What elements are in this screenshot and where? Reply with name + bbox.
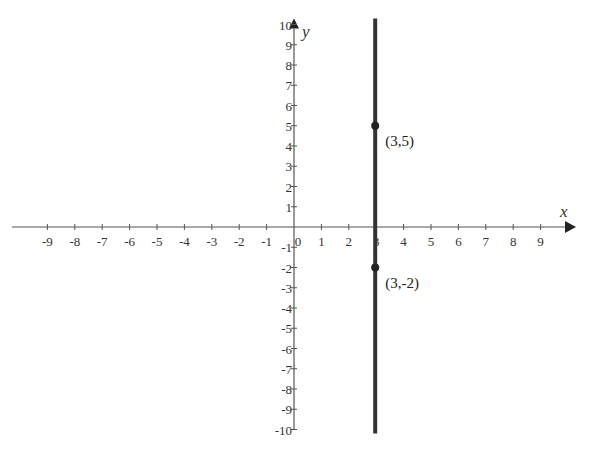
x-tick-label: 7 [483, 234, 490, 249]
y-tick-label: 5 [286, 119, 293, 134]
x-tick-label: 9 [537, 234, 544, 249]
y-tick-label: 8 [286, 58, 293, 73]
y-tick-label: -4 [281, 301, 292, 316]
x-tick-label: -2 [234, 234, 245, 249]
x-tick-label: -4 [179, 234, 190, 249]
y-tick-label: -7 [281, 362, 292, 377]
x-tick-label: 6 [455, 234, 462, 249]
x-tick-label: 5 [428, 234, 435, 249]
y-tick-label: 2 [286, 180, 293, 195]
x-tick-label: 4 [400, 234, 407, 249]
coordinate-plane: -9-8-7-6-5-4-3-2-10123456789-10-9-8-7-6-… [0, 0, 590, 464]
y-tick-label: 1 [286, 200, 293, 215]
y-axis-label: y [300, 22, 310, 41]
y-tick-label: -9 [281, 402, 292, 417]
y-tick-label: -10 [275, 423, 292, 438]
point-marker [371, 264, 379, 272]
x-tick-label: -1 [261, 234, 272, 249]
point-label: (3,5) [385, 133, 414, 150]
x-axis-arrow-icon [565, 221, 576, 233]
x-tick-label: 8 [510, 234, 517, 249]
y-tick-label: 10 [279, 18, 292, 33]
y-tick-label: -8 [281, 382, 292, 397]
y-tick-label: -6 [281, 342, 292, 357]
y-tick-label: -3 [281, 281, 292, 296]
point-marker [371, 122, 379, 130]
y-tick-label: -1 [281, 240, 292, 255]
y-tick-label: -2 [281, 261, 292, 276]
y-tick-label: 3 [286, 159, 293, 174]
y-tick-label: -5 [281, 321, 292, 336]
y-tick-label: 9 [286, 38, 293, 53]
x-tick-label: -3 [206, 234, 217, 249]
y-tick-label: 4 [286, 139, 293, 154]
y-tick-label: 7 [286, 78, 293, 93]
x-tick-label: -8 [69, 234, 80, 249]
x-tick-label: -7 [97, 234, 108, 249]
point-label: (3,-2) [385, 275, 419, 292]
x-tick-label: -5 [152, 234, 163, 249]
x-tick-label: 1 [318, 234, 325, 249]
y-tick-label: 6 [286, 99, 293, 114]
x-axis-label: x [559, 202, 568, 221]
x-tick-label: -6 [124, 234, 135, 249]
x-tick-label: -9 [42, 234, 53, 249]
x-tick-label: 2 [346, 234, 353, 249]
